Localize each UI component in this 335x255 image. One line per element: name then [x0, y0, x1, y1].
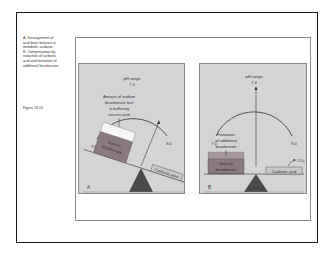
annotation-line: bicarbonate — [216, 144, 238, 149]
panel-label: A — [87, 185, 90, 190]
figure-caption: A. Derangement of acid-base balance in m… — [23, 36, 75, 68]
ph-center-value: 7.4 — [251, 80, 257, 85]
annotation-line: in buffering — [109, 106, 129, 111]
caption-line: additional bicarbonate. — [23, 64, 75, 69]
fulcrum-triangle — [244, 174, 268, 192]
annotation-line: Amount of sodium — [103, 94, 136, 99]
panel-a-metabolic-acidosis: pH range 7.4 7.0 8.0 Amount of sodium bi… — [78, 63, 185, 194]
ph-right-value: 8.0 — [291, 141, 297, 146]
ph-needle — [141, 122, 159, 166]
panel-b-illustration: pH range 7.4 7.0 8.0 Formation of additi… — [200, 64, 307, 194]
co2-label: CO2 — [297, 158, 305, 164]
ph-range-title: pH range — [123, 76, 141, 81]
annotation-line: excess acid — [109, 112, 130, 117]
ph-right-value: 8.0 — [166, 141, 172, 146]
annotation-line: bicarbonate lost — [105, 100, 134, 105]
ph-range-title: pH range — [245, 74, 263, 79]
block-label: bicarbonate — [216, 167, 238, 172]
fulcrum-triangle — [129, 168, 153, 192]
annotation-line: of additional — [215, 138, 237, 143]
panel-a-illustration: pH range 7.4 7.0 8.0 Amount of sodium bi… — [79, 64, 185, 194]
panel-label: B — [208, 185, 211, 190]
annotation-line: Formation — [217, 132, 235, 137]
co2-arrowhead — [294, 159, 297, 161]
carbonic-acid-label: Carbonic acid — [272, 169, 296, 174]
needle-arrowhead — [157, 120, 160, 124]
figure-number: Figure 24.05 — [23, 106, 43, 110]
ph-center-value: 7.4 — [129, 82, 135, 87]
block-label: Sodium — [219, 161, 233, 166]
panel-b-compensation: pH range 7.4 7.0 8.0 Formation of additi… — [199, 63, 307, 194]
needle-arrowhead — [255, 86, 258, 90]
